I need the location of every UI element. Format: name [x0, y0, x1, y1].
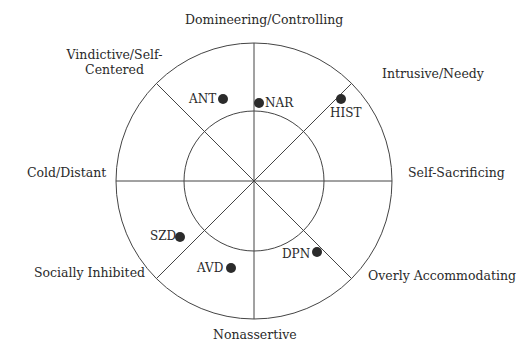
point-label-szd: SZD	[150, 229, 176, 243]
label-overly-accommodating: Overly Accommodating	[368, 268, 516, 283]
point-hist-dot	[336, 94, 346, 104]
label-vindictive-self-centered: Vindictive/Self- Centered	[62, 47, 167, 77]
point-label-nar: NAR	[265, 96, 293, 110]
label-self-sacrificing: Self-Sacrificing	[408, 165, 505, 180]
label-nonassertive: Nonassertive	[213, 327, 297, 342]
label-socially-inhibited: Socially Inhibited	[34, 265, 145, 280]
point-label-hist: HIST	[330, 106, 361, 120]
point-ant-dot	[218, 94, 228, 104]
point-avd-dot	[226, 263, 236, 273]
point-label-dpn: DPN	[282, 247, 310, 261]
label-domineering-controlling: Domineering/Controlling	[185, 12, 343, 27]
label-vindictive-line2: Centered	[62, 62, 167, 77]
label-cold-distant: Cold/Distant	[27, 165, 106, 180]
point-szd-dot	[175, 232, 185, 242]
point-label-avd: AVD	[197, 261, 223, 275]
point-dpn-dot	[312, 247, 322, 257]
label-intrusive-needy: Intrusive/Needy	[382, 66, 484, 81]
point-label-ant: ANT	[189, 92, 216, 106]
label-vindictive-line1: Vindictive/Self-	[62, 47, 167, 62]
point-nar-dot	[254, 98, 264, 108]
